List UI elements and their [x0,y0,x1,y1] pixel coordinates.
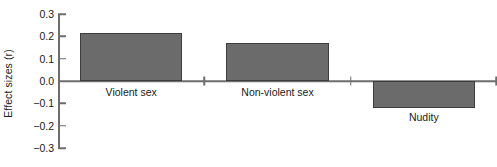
category-label: Nudity [409,112,439,123]
bar [80,33,182,81]
bar-chart: Effect sizes (r) 0.3 0.2 0.1 0.0 −0.1 −0… [0,0,497,167]
y-tick-label: 0.2 [14,31,54,42]
y-tick-label: −0.1 [14,98,54,109]
y-tick-label: 0.3 [14,9,54,20]
y-axis-tick [58,125,66,127]
y-axis-tick [58,103,66,105]
bar [373,81,475,108]
plot-area: Violent sexNon-violent sexNudity [58,0,497,167]
bar [226,43,328,81]
y-tick-label: −0.2 [14,120,54,131]
y-axis-tick [58,36,66,38]
category-label: Non-violent sex [241,87,313,98]
y-axis-tick-labels: 0.3 0.2 0.1 0.0 −0.1 −0.2 −0.3 [14,0,54,167]
y-tick-label: −0.3 [14,143,54,154]
y-tick-label: 0.0 [14,76,54,87]
x-axis-tick [350,77,352,86]
y-axis-tick [58,58,66,60]
x-axis-tick [204,77,206,86]
category-label: Violent sex [106,87,157,98]
y-tick-label: 0.1 [14,53,54,64]
y-axis-tick [58,147,66,149]
y-axis-tick [58,13,66,15]
